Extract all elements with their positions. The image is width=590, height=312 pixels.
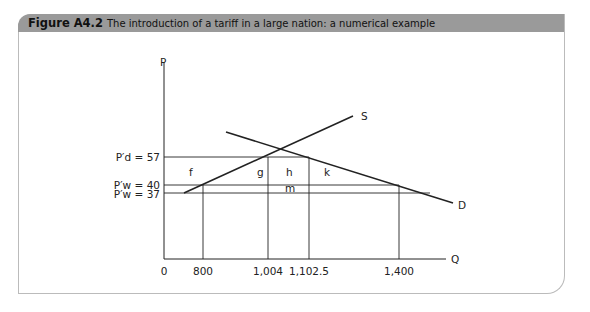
y-tick-pd: P′d = 57 [116,151,160,163]
area-k: k [324,166,331,178]
area-h: h [286,166,293,178]
x-tick-1102: 1,102.5 [289,265,329,277]
x-tick-1004: 1,004 [253,265,283,277]
area-f: f [189,166,193,178]
chart: P Q S D P′d = 57 P′w = 40 P′w = 37 0 800… [0,0,590,312]
x-tick-800: 800 [193,265,213,277]
y-axis-label: P [160,56,166,68]
supply-label: S [361,110,368,122]
x-tick-1400: 1,400 [384,265,414,277]
x-tick-0: 0 [161,265,168,277]
demand-label: D [458,199,466,211]
area-m: m [285,182,295,194]
supply-curve [184,116,353,193]
x-axis-label: Q [451,253,459,265]
area-g: g [257,166,264,178]
y-tick-pw37: P′w = 37 [114,188,160,200]
